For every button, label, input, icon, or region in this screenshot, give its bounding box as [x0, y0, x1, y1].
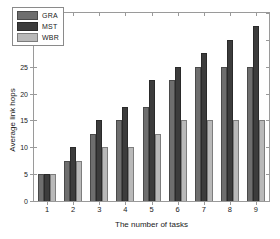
x-axis-tick-top [73, 13, 74, 16]
bars-layer [34, 13, 269, 201]
legend-swatch-icon [17, 33, 38, 42]
x-axis-tick-top [230, 13, 231, 16]
y-axis-tick-inner [34, 94, 37, 95]
y-axis-tick-inner [34, 67, 37, 68]
legend-item-label: MST [42, 23, 57, 30]
x-axis-tick-label: 7 [202, 205, 206, 214]
chart-figure: 05101520253035123456789 The number of ta… [0, 0, 280, 239]
bar-group [116, 13, 134, 201]
legend-item-label: WBR [42, 34, 59, 41]
y-axis-tick-right [266, 67, 269, 68]
bar-group [195, 13, 213, 201]
legend-item-gra[interactable]: GRA [17, 11, 59, 20]
legend-swatch-icon [17, 11, 38, 20]
y-axis-tick-right [266, 13, 269, 14]
legend-item-wbr[interactable]: WBR [17, 33, 59, 42]
x-axis-tick-label: 8 [228, 205, 232, 214]
bar-wbr-4 [128, 147, 134, 201]
bar-group [64, 13, 82, 201]
bar-wbr-8 [233, 120, 239, 201]
y-axis-tick-label: 10 [20, 144, 28, 151]
bar-wbr-6 [181, 120, 187, 201]
y-axis-tick-label: 25 [20, 63, 28, 70]
y-axis-tick-inner [34, 174, 37, 175]
x-axis-tick-top [178, 13, 179, 16]
bar-wbr-1 [50, 174, 56, 201]
x-axis-tick-label: 3 [97, 205, 101, 214]
y-axis-title: Average link hops [8, 60, 17, 180]
y-axis-tick-right [266, 40, 269, 41]
bar-wbr-7 [207, 120, 213, 201]
bar-wbr-5 [155, 134, 161, 201]
y-axis-tick-right [266, 174, 269, 175]
y-axis-tick-right [266, 120, 269, 121]
x-axis-tick-top [152, 13, 153, 16]
bar-wbr-2 [76, 161, 82, 201]
x-axis-tick-top [256, 13, 257, 16]
x-axis-tick-top [204, 13, 205, 16]
x-axis-tick-label: 6 [176, 205, 180, 214]
y-axis-tick-label: 5 [24, 171, 28, 178]
x-axis-title: The number of tasks [33, 220, 270, 229]
legend-item-mst[interactable]: MST [17, 22, 59, 31]
bar-group [221, 13, 239, 201]
y-axis-tick-inner [34, 120, 37, 121]
legend-item-label: GRA [42, 12, 58, 19]
x-axis-tick-label: 9 [254, 205, 258, 214]
bar-group [143, 13, 161, 201]
y-axis-tick-inner [34, 201, 37, 202]
bar-group [169, 13, 187, 201]
x-axis-tick-label: 4 [123, 205, 127, 214]
x-axis-tick-top [99, 13, 100, 16]
bar-group [247, 13, 265, 201]
plot-area: 05101520253035123456789 [33, 12, 270, 202]
y-axis-tick-label: 0 [24, 198, 28, 205]
x-axis-tick-label: 1 [45, 205, 49, 214]
x-axis-tick-label: 5 [149, 205, 153, 214]
bar-wbr-9 [259, 120, 265, 201]
bar-wbr-3 [102, 147, 108, 201]
y-axis-tick-right [266, 147, 269, 148]
y-axis-tick-label: 20 [20, 90, 28, 97]
y-axis-tick-inner [34, 147, 37, 148]
y-axis-tick-label: 15 [20, 117, 28, 124]
y-axis-tick-right [266, 94, 269, 95]
bar-group [90, 13, 108, 201]
x-axis-tick-top [125, 13, 126, 16]
chart-legend: GRAMSTWBR [12, 7, 64, 46]
legend-swatch-icon [17, 22, 38, 31]
x-axis-tick-label: 2 [71, 205, 75, 214]
y-axis-tick-right [266, 201, 269, 202]
